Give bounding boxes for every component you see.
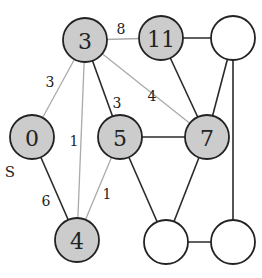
node-5: 5	[98, 115, 142, 159]
node-nBM	[144, 220, 188, 264]
graph-diagram: 3110574 3134861 S	[0, 0, 262, 278]
node-circle	[144, 220, 188, 264]
node-label: 7	[200, 126, 214, 151]
source-label: S	[5, 163, 15, 181]
nodes-layer: 3110574	[10, 16, 255, 264]
node-label: 0	[25, 126, 39, 151]
node-7: 7	[185, 115, 229, 159]
edge-weight-label: 1	[103, 186, 112, 202]
node-label: 11	[147, 27, 175, 52]
node-4: 4	[55, 218, 99, 262]
edge-weight-label: 1	[70, 133, 79, 149]
edge-weight-label: 6	[42, 193, 51, 209]
node-nBR	[211, 220, 255, 264]
edge-weight-label: 3	[46, 74, 55, 90]
edge-weight-label: 3	[113, 95, 122, 111]
node-circle	[211, 16, 255, 60]
node-circle	[211, 220, 255, 264]
node-11: 11	[139, 16, 183, 60]
node-label: 4	[70, 229, 84, 254]
node-3: 3	[63, 18, 107, 62]
node-nTR	[211, 16, 255, 60]
edge-weight-label: 8	[117, 21, 126, 37]
node-label: 3	[78, 29, 92, 54]
node-label: 5	[113, 126, 127, 151]
edge-weight-label: 4	[148, 88, 157, 104]
node-0: 0	[10, 115, 54, 159]
